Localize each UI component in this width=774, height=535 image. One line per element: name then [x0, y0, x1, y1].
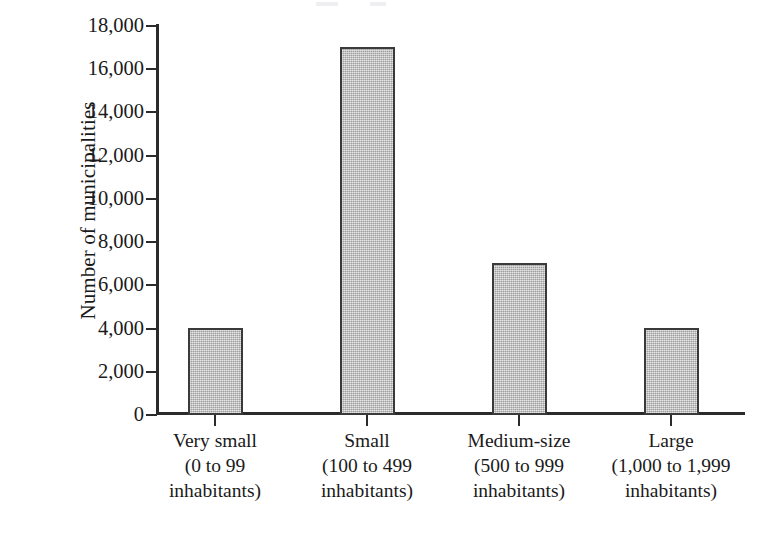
- bar-small: [340, 47, 395, 415]
- bar-very-small: [188, 328, 243, 415]
- x-axis-tick-mark: [214, 415, 216, 426]
- x-axis-category-label-line: Large: [578, 428, 764, 453]
- y-axis-tick-mark: [146, 25, 157, 27]
- bar-large: [644, 328, 699, 415]
- y-axis-tick-mark: [146, 198, 157, 200]
- y-axis-line: [156, 24, 159, 415]
- x-axis-tick-mark: [670, 415, 672, 426]
- y-axis-tick-mark: [146, 241, 157, 243]
- y-axis-tick-mark: [146, 284, 157, 286]
- y-axis-tick-mark: [146, 328, 157, 330]
- y-axis-tick-mark: [146, 414, 157, 416]
- y-axis-tick-mark: [146, 371, 157, 373]
- bar-medium-size: [492, 263, 547, 415]
- bar-chart-figure: Number of municipalities 18,00016,00014,…: [0, 0, 774, 535]
- y-axis-tick-mark: [146, 111, 157, 113]
- x-axis-category-label-line: inhabitants): [578, 478, 764, 503]
- x-axis-tick-mark: [366, 415, 368, 426]
- x-axis-category-label: Large(1,000 to 1,999inhabitants): [578, 428, 764, 503]
- y-axis-tick-mark: [146, 68, 157, 70]
- y-axis-tick-mark: [146, 155, 157, 157]
- x-axis-tick-mark: [518, 415, 520, 426]
- x-axis-category-label-line: (1,000 to 1,999: [578, 453, 764, 478]
